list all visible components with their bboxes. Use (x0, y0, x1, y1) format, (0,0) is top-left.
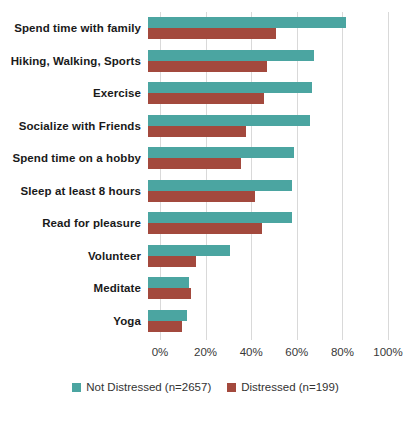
bar-not-distressed (148, 310, 187, 321)
bar-distressed (148, 321, 182, 332)
bar-distressed (148, 158, 241, 169)
bar-distressed (148, 93, 264, 104)
bar-group (148, 12, 376, 45)
bar-not-distressed (148, 180, 292, 191)
bar-group (148, 175, 376, 208)
x-axis: 0%20%40%60%80%100% (160, 337, 388, 363)
bar-not-distressed (148, 50, 314, 61)
category-label-meditate: Meditate (0, 282, 148, 294)
bar-group (148, 77, 376, 110)
x-tick-label-20: 20% (194, 346, 217, 358)
distressed-swatch-icon (227, 383, 236, 392)
x-tick-label-60: 60% (285, 346, 308, 358)
bar-group (148, 110, 376, 143)
legend: Not Distressed (n=2657) Distressed (n=19… (0, 381, 411, 393)
chart-row: Read for pleasure (0, 207, 411, 240)
bar-distressed (148, 191, 255, 202)
bar-distressed (148, 288, 191, 299)
bar-group (148, 207, 376, 240)
bar-distressed (148, 61, 267, 72)
chart-rows: Spend time with familyHiking, Walking, S… (0, 12, 411, 337)
x-tick-label-100: 100% (373, 346, 402, 358)
bar-not-distressed (148, 115, 310, 126)
category-label-spend-time-on-a-hobby: Spend time on a hobby (0, 152, 148, 164)
category-label-yoga: Yoga (0, 315, 148, 327)
plot-area: Spend time with familyHiking, Walking, S… (0, 12, 411, 337)
chart-row: Exercise (0, 77, 411, 110)
x-tick-label-0: 0% (152, 346, 169, 358)
legend-label: Distressed (n=199) (241, 381, 338, 393)
bar-not-distressed (148, 147, 294, 158)
category-label-read-for-pleasure: Read for pleasure (0, 217, 148, 229)
x-tick-label-80: 80% (331, 346, 354, 358)
bar-group (148, 240, 376, 273)
x-tick-label-40: 40% (240, 346, 263, 358)
bar-distressed (148, 28, 276, 39)
chart-row: Socialize with Friends (0, 110, 411, 143)
chart-row: Volunteer (0, 240, 411, 273)
bar-distressed (148, 126, 246, 137)
not-distressed-swatch-icon (72, 383, 81, 392)
category-label-hiking-walking-sports: Hiking, Walking, Sports (0, 55, 148, 67)
legend-item-distressed: Distressed (n=199) (227, 381, 338, 393)
chart-row: Meditate (0, 272, 411, 305)
bar-not-distressed (148, 277, 189, 288)
category-label-volunteer: Volunteer (0, 250, 148, 262)
chart-row: Yoga (0, 305, 411, 338)
bar-group (148, 305, 376, 338)
distress-activities-bar-chart: Spend time with familyHiking, Walking, S… (0, 0, 411, 422)
chart-row: Spend time on a hobby (0, 142, 411, 175)
chart-row: Hiking, Walking, Sports (0, 45, 411, 78)
legend-item-not-distressed: Not Distressed (n=2657) (72, 381, 211, 393)
category-label-socialize-with-friends: Socialize with Friends (0, 120, 148, 132)
bar-group (148, 272, 376, 305)
category-label-sleep-at-least-8-hours: Sleep at least 8 hours (0, 185, 148, 197)
bar-not-distressed (148, 245, 230, 256)
bar-not-distressed (148, 82, 312, 93)
bar-group (148, 45, 376, 78)
bar-not-distressed (148, 17, 346, 28)
bar-group (148, 142, 376, 175)
category-label-exercise: Exercise (0, 87, 148, 99)
bar-not-distressed (148, 212, 292, 223)
bar-distressed (148, 223, 262, 234)
category-label-spend-time-with-family: Spend time with family (0, 22, 148, 34)
legend-label: Not Distressed (n=2657) (86, 381, 211, 393)
chart-row: Sleep at least 8 hours (0, 175, 411, 208)
bar-distressed (148, 256, 196, 267)
chart-row: Spend time with family (0, 12, 411, 45)
